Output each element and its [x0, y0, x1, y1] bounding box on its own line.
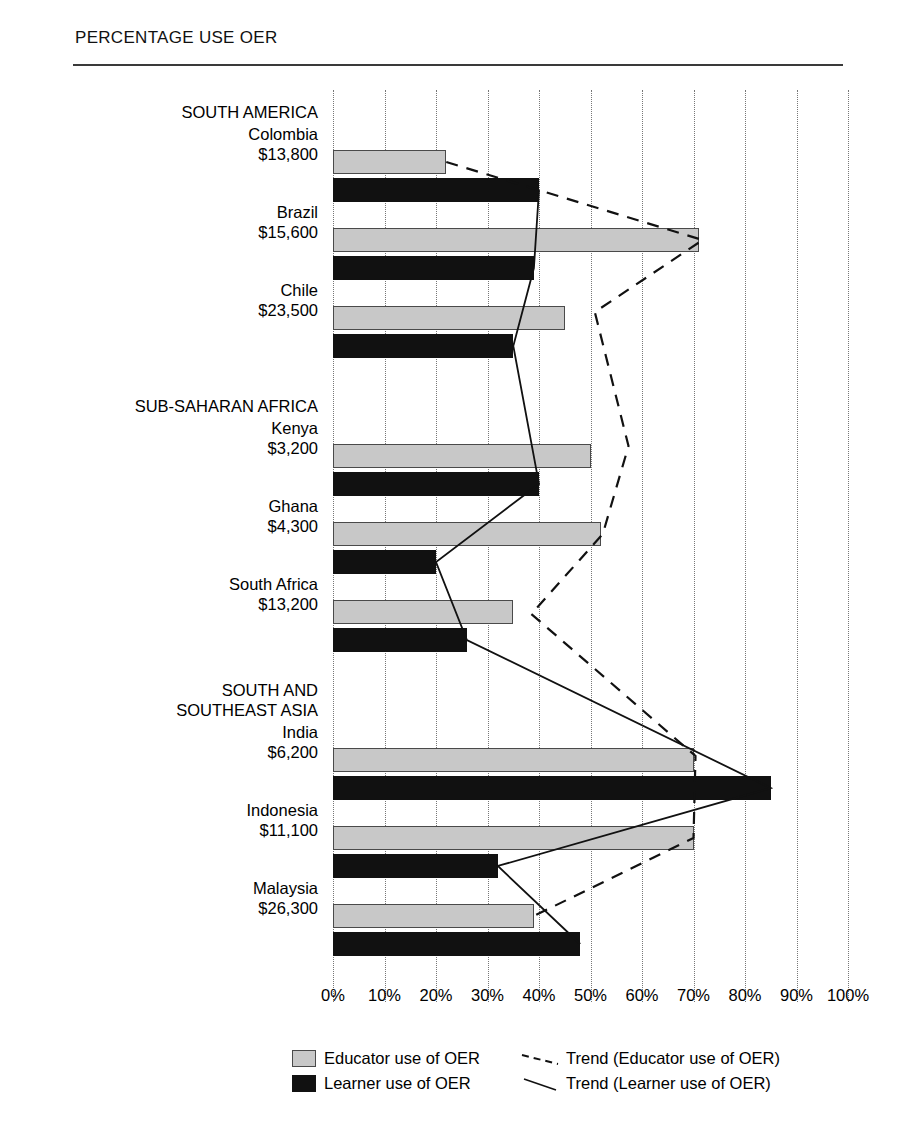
category-label-brazil: Brazil$15,600	[258, 202, 318, 242]
category-label-chile: Chile$23,500	[258, 280, 318, 320]
bar-educator-kenya	[333, 444, 591, 468]
bar-educator-colombia	[333, 150, 446, 174]
country-gdp: $3,200	[268, 438, 318, 458]
title-divider	[73, 64, 843, 66]
legend-label-educator: Educator use of OER	[324, 1049, 520, 1068]
bar-educator-chile	[333, 306, 565, 330]
country-name: Brazil	[258, 202, 318, 222]
category-label-south-africa: South Africa$13,200	[229, 574, 318, 614]
bar-learner-chile	[333, 334, 513, 358]
country-name: Kenya	[268, 418, 318, 438]
gridline	[797, 90, 798, 1002]
legend-row-educator: Educator use of OER Trend (Educator use …	[292, 1046, 892, 1071]
chart-legend: Educator use of OER Trend (Educator use …	[292, 1046, 892, 1096]
bar-learner-indonesia	[333, 854, 498, 878]
bar-educator-brazil	[333, 228, 699, 252]
category-label-colombia: Colombia$13,800	[248, 124, 318, 164]
x-tick-60: 60%	[625, 986, 658, 1005]
category-label-ghana: Ghana$4,300	[268, 496, 318, 536]
x-tick-50: 50%	[574, 986, 607, 1005]
educator-swatch-icon	[292, 1050, 316, 1067]
bar-learner-india	[333, 776, 771, 800]
solid-trend-line-icon	[520, 1076, 560, 1092]
x-tick-90: 90%	[780, 986, 813, 1005]
gridline	[591, 90, 592, 1002]
country-gdp: $23,500	[258, 300, 318, 320]
chart-root: PERCENTAGE USE OER SOUTH AMERICAColombia…	[0, 0, 915, 1123]
legend-label-learner: Learner use of OER	[324, 1074, 520, 1093]
x-tick-20: 20%	[419, 986, 452, 1005]
country-gdp: $15,600	[258, 222, 318, 242]
gridline	[745, 90, 746, 1002]
country-gdp: $13,800	[248, 144, 318, 164]
x-tick-70: 70%	[677, 986, 710, 1005]
country-gdp: $11,100	[246, 820, 318, 840]
group-header-south-america: SOUTH AMERICA	[181, 102, 318, 122]
gridline	[642, 90, 643, 1002]
bar-educator-south-africa	[333, 600, 513, 624]
x-tick-40: 40%	[522, 986, 555, 1005]
country-gdp: $26,300	[253, 898, 318, 918]
group-header-south-and-southeast-asia: SOUTH AND SOUTHEAST ASIA	[176, 680, 318, 720]
country-name: India	[268, 722, 318, 742]
chart-title: PERCENTAGE USE OER	[75, 28, 278, 48]
country-gdp: $4,300	[268, 516, 318, 536]
category-label-indonesia: Indonesia$11,100	[246, 800, 318, 840]
country-gdp: $13,200	[229, 594, 318, 614]
x-tick-30: 30%	[471, 986, 504, 1005]
bar-learner-ghana	[333, 550, 436, 574]
gridline	[848, 90, 849, 1002]
category-label-kenya: Kenya$3,200	[268, 418, 318, 458]
dashed-trend-line-icon	[520, 1051, 560, 1067]
category-label-india: India$6,200	[268, 722, 318, 762]
legend-label-educator-trend: Trend (Educator use of OER)	[566, 1049, 780, 1068]
bar-learner-brazil	[333, 256, 534, 280]
bar-learner-south-africa	[333, 628, 467, 652]
x-tick-0: 0%	[321, 986, 345, 1005]
learner-swatch-icon	[292, 1075, 316, 1092]
bar-educator-india	[333, 748, 694, 772]
bar-learner-colombia	[333, 178, 539, 202]
category-label-malaysia: Malaysia$26,300	[253, 878, 318, 918]
country-name: South Africa	[229, 574, 318, 594]
country-name: Colombia	[248, 124, 318, 144]
bar-educator-indonesia	[333, 826, 694, 850]
country-name: Chile	[258, 280, 318, 300]
group-header-sub-saharan-africa: SUB-SAHARAN AFRICA	[135, 396, 318, 416]
legend-row-learner: Learner use of OER Trend (Learner use of…	[292, 1071, 892, 1096]
bar-learner-malaysia	[333, 932, 580, 956]
gridline	[694, 90, 695, 1002]
plot-area	[333, 90, 848, 1002]
bar-learner-kenya	[333, 472, 539, 496]
x-axis-tick-labels: 0%10%20%30%40%50%60%70%80%90%100%	[333, 986, 893, 1012]
country-name: Ghana	[268, 496, 318, 516]
category-axis-labels: SOUTH AMERICAColombia$13,800Brazil$15,60…	[0, 90, 318, 970]
gridline	[539, 90, 540, 1002]
country-name: Malaysia	[253, 878, 318, 898]
x-tick-10: 10%	[368, 986, 401, 1005]
bar-educator-ghana	[333, 522, 601, 546]
x-tick-100: 100%	[827, 986, 869, 1005]
country-gdp: $6,200	[268, 742, 318, 762]
x-tick-80: 80%	[728, 986, 761, 1005]
bar-educator-malaysia	[333, 904, 534, 928]
country-name: Indonesia	[246, 800, 318, 820]
legend-label-learner-trend: Trend (Learner use of OER)	[566, 1074, 771, 1093]
